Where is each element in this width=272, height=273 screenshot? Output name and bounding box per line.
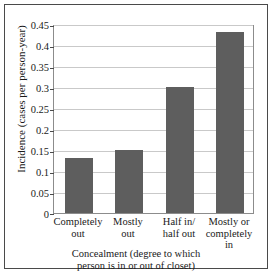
y-axis-tick-mark	[50, 110, 54, 111]
y-axis-tick-label: 0.05	[31, 188, 49, 199]
y-axis-tick-label: 0.15	[31, 146, 49, 157]
bar	[216, 32, 244, 213]
y-axis-tick-mark	[50, 173, 54, 174]
y-axis-tick-mark	[50, 47, 54, 48]
y-axis-tick-label: 0.35	[31, 62, 49, 73]
x-axis-tick-label-line: completely	[198, 228, 260, 240]
gridline	[54, 25, 253, 26]
bar	[166, 87, 194, 213]
y-axis-tick-label: 0.25	[31, 104, 49, 115]
y-axis-tick-label: 0.45	[31, 20, 49, 31]
x-axis-title-line: person is in or out of closet)	[25, 260, 247, 272]
y-axis-tick-mark	[50, 214, 54, 215]
bar-chart: Incidence (cases per person-year) 00.050…	[5, 5, 267, 268]
y-axis-tick-mark	[50, 26, 54, 27]
y-axis-tick-mark	[50, 68, 54, 69]
y-axis-tick-mark	[50, 152, 54, 153]
y-axis-tick-label: 0.3	[36, 83, 49, 94]
y-axis-tick-mark	[50, 194, 54, 195]
y-axis-tick-mark	[50, 131, 54, 132]
x-axis-tick-label: Mostly orcompletelyin	[198, 216, 260, 251]
bar	[65, 158, 93, 213]
x-axis-tick-label-line: Mostly or	[198, 216, 260, 228]
y-axis-tick-label: 0.1	[36, 167, 49, 178]
figure-panel: Incidence (cases per person-year) 00.050…	[4, 4, 268, 269]
y-axis-tick-label: 0.2	[36, 125, 49, 136]
x-axis-title: Concealment (degree to whichperson is in…	[25, 248, 247, 271]
y-axis-tick-mark	[50, 89, 54, 90]
x-axis-title-line: Concealment (degree to which	[25, 248, 247, 260]
plot-area	[53, 25, 254, 214]
y-axis-tick-label: 0.4	[36, 41, 49, 52]
bar	[115, 150, 143, 213]
y-axis-tick-labels: 00.050.10.150.20.250.30.350.40.45	[5, 25, 49, 214]
